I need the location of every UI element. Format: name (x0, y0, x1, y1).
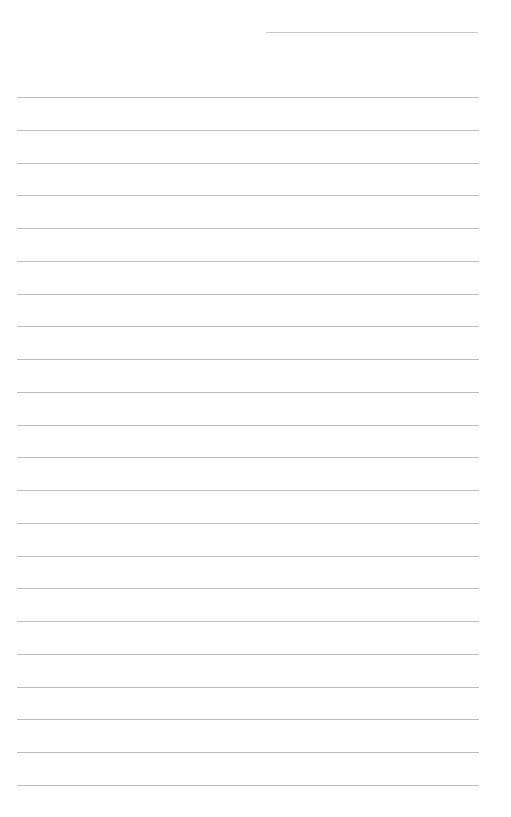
ruled-line (17, 556, 479, 557)
ruled-line (17, 326, 479, 327)
ruled-line (17, 654, 479, 655)
ruled-line (17, 195, 479, 196)
ruled-line (17, 719, 479, 720)
lined-page (0, 0, 511, 817)
ruled-line (17, 228, 479, 229)
ruled-line (17, 588, 479, 589)
ruled-line (17, 97, 479, 98)
ruled-line (17, 261, 479, 262)
ruled-line (17, 294, 479, 295)
ruled-line (17, 392, 479, 393)
ruled-line (17, 523, 479, 524)
ruled-line (17, 359, 479, 360)
ruled-line (17, 490, 479, 491)
ruled-line (17, 752, 479, 753)
ruled-line (17, 785, 479, 786)
ruled-line (17, 621, 479, 622)
ruled-line (17, 130, 479, 131)
ruled-line (17, 163, 479, 164)
ruled-line (17, 457, 479, 458)
date-header-line (266, 32, 478, 33)
ruled-line (17, 687, 479, 688)
ruled-line (17, 425, 479, 426)
